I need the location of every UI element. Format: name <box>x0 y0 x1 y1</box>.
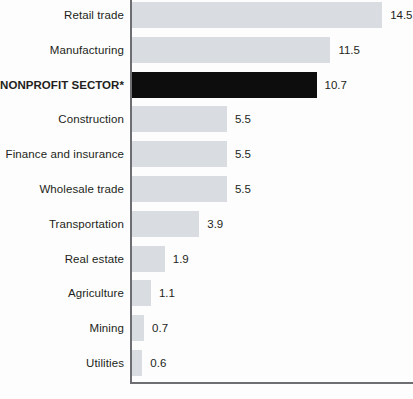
bar <box>132 315 144 341</box>
x-axis-line <box>130 382 413 384</box>
category-label: Retail trade <box>0 2 124 28</box>
bar <box>132 176 227 202</box>
category-label: Manufacturing <box>0 37 124 63</box>
value-label: 5.5 <box>235 106 251 132</box>
bar <box>132 2 382 28</box>
bar-row: Retail trade14.5 <box>0 2 413 28</box>
category-label: Real estate <box>0 246 124 272</box>
category-label: Agriculture <box>0 280 124 306</box>
bar-row: Finance and insurance5.5 <box>0 141 413 167</box>
bar-row: Utilities0.6 <box>0 350 413 376</box>
value-label: 5.5 <box>235 141 251 167</box>
category-label: Transportation <box>0 211 124 237</box>
bar <box>132 106 227 132</box>
bar <box>132 280 151 306</box>
bar-row: NONPROFIT SECTOR*10.7 <box>0 72 413 98</box>
bar <box>132 37 330 63</box>
value-label: 11.5 <box>338 37 360 63</box>
value-label: 3.9 <box>207 211 223 237</box>
bar-chart: Retail trade14.5Manufacturing11.5NONPROF… <box>0 0 413 399</box>
value-label: 5.5 <box>235 176 251 202</box>
category-label: Utilities <box>0 350 124 376</box>
value-label: 10.7 <box>325 72 347 98</box>
bar <box>132 350 142 376</box>
value-label: 14.5 <box>390 2 412 28</box>
bar-row: Construction5.5 <box>0 106 413 132</box>
value-label: 1.9 <box>173 246 189 272</box>
bar-row: Wholesale trade5.5 <box>0 176 413 202</box>
bar <box>132 141 227 167</box>
category-label: Finance and insurance <box>0 141 124 167</box>
bar-row: Transportation3.9 <box>0 211 413 237</box>
bar-row: Real estate1.9 <box>0 246 413 272</box>
value-label: 0.6 <box>150 350 166 376</box>
bar-highlighted <box>132 72 317 98</box>
value-label: 0.7 <box>152 315 168 341</box>
category-label: Mining <box>0 315 124 341</box>
category-label: Wholesale trade <box>0 176 124 202</box>
bar <box>132 211 199 237</box>
category-label: Construction <box>0 106 124 132</box>
bar-row: Manufacturing11.5 <box>0 37 413 63</box>
bar-row: Agriculture1.1 <box>0 280 413 306</box>
bar-row: Mining0.7 <box>0 315 413 341</box>
category-label: NONPROFIT SECTOR* <box>0 72 124 98</box>
value-label: 1.1 <box>159 280 175 306</box>
bar <box>132 246 165 272</box>
